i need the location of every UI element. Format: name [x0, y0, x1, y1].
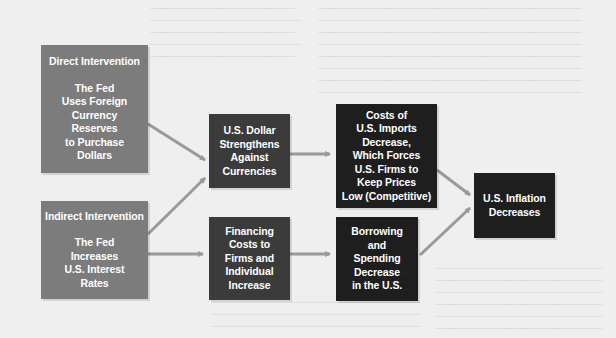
node-line: in the U.S. [352, 279, 402, 293]
arrow-indirect-to-dollar [148, 178, 205, 234]
node-heading: Indirect Intervention [45, 210, 144, 224]
node-line: Increases [71, 250, 119, 264]
node-line: Financing [225, 225, 274, 239]
arrow-imports-to-inflation [437, 170, 470, 195]
node-line: U.S. Interest [65, 263, 125, 277]
node-line: U.S. Dollar [224, 124, 276, 138]
arrow-borrowing-to-inflation [420, 208, 470, 255]
node-indirect-intervention: Indirect Intervention The Fed Increases … [41, 201, 148, 299]
node-line: Dollars [77, 149, 112, 163]
node-line: U.S. Firms to [355, 163, 418, 177]
node-dollar-strengthens: U.S. Dollar Strengthens Against Currenci… [209, 114, 290, 188]
node-line: Decreases [489, 206, 541, 220]
node-line: Uses Foreign [62, 95, 127, 109]
node-line: Keep Prices [357, 176, 416, 190]
node-line: The Fed [75, 82, 115, 96]
node-line: Individual [225, 265, 273, 279]
node-line: Which Forces [353, 149, 421, 163]
node-borrowing-spending-decrease: Borrowing and Spending Decrease in the U… [336, 217, 418, 301]
node-line: Currency [72, 109, 117, 123]
node-line: U.S. Inflation [483, 192, 546, 206]
node-line: Rates [80, 277, 108, 291]
node-line: Low (Competitive) [342, 190, 431, 204]
node-line: Increase [229, 279, 271, 293]
node-line: The Fed [75, 236, 115, 250]
node-line: Costs to [229, 238, 270, 252]
node-line: Costs of [366, 109, 407, 123]
node-line: and [368, 239, 386, 253]
arrow-direct-to-dollar [148, 124, 205, 160]
node-line: Firms and [225, 252, 274, 266]
node-financing-costs-increase: Financing Costs to Firms and Individual … [209, 217, 290, 300]
node-line: Decrease, [362, 136, 411, 150]
node-heading: Direct Intervention [49, 55, 140, 69]
node-import-costs-decrease: Costs of U.S. Imports Decrease, Which Fo… [336, 104, 437, 208]
node-line: Borrowing [351, 225, 403, 239]
node-line: Strengthens [219, 138, 279, 152]
node-line: U.S. Imports [356, 122, 417, 136]
node-line: Decrease [354, 266, 400, 280]
node-line: Spending [353, 252, 400, 266]
node-direct-intervention: Direct Intervention The Fed Uses Foreign… [41, 45, 148, 173]
node-line: to Purchase [65, 136, 124, 150]
node-line: Currencies [223, 165, 277, 179]
node-line: Reserves [72, 122, 118, 136]
node-line: Against [231, 151, 269, 165]
node-inflation-decreases: U.S. Inflation Decreases [474, 173, 555, 238]
